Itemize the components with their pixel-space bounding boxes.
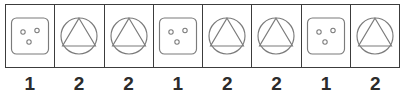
dotted-square-icon: [156, 11, 200, 61]
sequence-cell-8[interactable]: [351, 5, 399, 67]
cell-label-7: 1: [301, 70, 350, 96]
cell-strip: [5, 4, 400, 68]
cell-label-4: 1: [153, 70, 202, 96]
circle-triangle-icon: [57, 11, 101, 61]
sequence-cell-1[interactable]: [6, 5, 55, 67]
cell-label-8: 2: [351, 70, 400, 96]
sequence-cell-7[interactable]: [302, 5, 351, 67]
shape-sequence-figure: 1 2 2 1 2 2 1 2: [0, 0, 408, 98]
cell-label-3: 2: [104, 70, 153, 96]
cell-label-5: 2: [203, 70, 252, 96]
sequence-cell-2[interactable]: [55, 5, 104, 67]
circle-triangle-icon: [353, 11, 397, 61]
sequence-cell-5[interactable]: [203, 5, 252, 67]
sequence-cell-3[interactable]: [105, 5, 154, 67]
dotted-square-icon: [8, 11, 52, 61]
cell-label-1: 1: [5, 70, 54, 96]
cell-label-6: 2: [252, 70, 301, 96]
circle-triangle-icon: [205, 11, 249, 61]
label-row: 1 2 2 1 2 2 1 2: [5, 70, 400, 96]
dotted-square-icon: [304, 11, 348, 61]
cell-label-2: 2: [54, 70, 103, 96]
sequence-cell-6[interactable]: [252, 5, 301, 67]
circle-triangle-icon: [254, 11, 298, 61]
sequence-cell-4[interactable]: [154, 5, 203, 67]
circle-triangle-icon: [107, 11, 151, 61]
